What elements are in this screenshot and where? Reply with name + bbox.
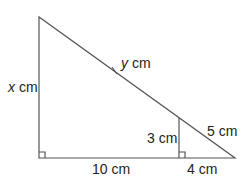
hypotenuse-label: y cm: [120, 55, 151, 71]
base-left-label: 10 cm: [92, 161, 130, 177]
large-triangle: [39, 17, 235, 158]
base-right-label: 4 cm: [187, 161, 217, 177]
inner-height-label: 3 cm: [147, 130, 177, 146]
triangle-diagram: x cm y cm 3 cm 5 cm 10 cm 4 cm: [0, 0, 248, 187]
right-angle-marker-left: [39, 152, 45, 158]
left-side-label: x cm: [7, 79, 38, 95]
small-hypotenuse-label: 5 cm: [207, 123, 237, 139]
right-angle-marker-inner: [179, 152, 185, 158]
